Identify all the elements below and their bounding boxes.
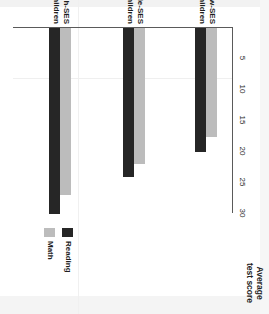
- x-tick-30: 30: [238, 202, 247, 224]
- category-label-middle-ses-line2: children: [126, 0, 136, 24]
- x-tick-15: 15: [238, 109, 247, 131]
- x-axis-title-line1: Average: [255, 255, 265, 311]
- category-label-middle-ses: Middle-SES children: [126, 0, 145, 24]
- x-axis-line: [232, 27, 233, 213]
- category-label-middle-ses-line1: Middle-SES: [136, 0, 146, 24]
- bar-math-high-ses: [60, 28, 71, 195]
- x-tick-25: 25: [238, 171, 247, 193]
- x-tick-5: 5: [238, 47, 247, 69]
- category-label-high-ses: High-SES children: [52, 0, 71, 24]
- x-tick-20: 20: [238, 140, 247, 162]
- category-label-low-ses: Low-SES children: [198, 0, 217, 24]
- bar-math-low-ses: [206, 28, 217, 137]
- legend-swatch-math-icon: [44, 228, 55, 237]
- legend-label-math: Math: [46, 241, 55, 260]
- bar-reading-low-ses: [195, 28, 206, 152]
- x-axis-title: Average test score: [245, 255, 265, 311]
- bar-reading-high-ses: [49, 28, 60, 214]
- category-label-low-ses-line1: Low-SES: [208, 0, 218, 24]
- legend-swatch-reading-icon: [62, 228, 73, 237]
- rotated-chart-container: Average test score 5 10 15 20 25 30 Low-…: [0, 0, 269, 314]
- legend-label-reading: Reading: [64, 241, 73, 273]
- bar-chart: Average test score 5 10 15 20 25 30 Low-…: [0, 0, 269, 314]
- category-label-high-ses-line1: High-SES: [62, 0, 72, 24]
- category-label-low-ses-line2: children: [198, 0, 208, 24]
- bar-reading-middle-ses: [123, 28, 134, 177]
- bar-math-middle-ses: [134, 28, 145, 164]
- category-label-high-ses-line2: children: [52, 0, 62, 24]
- x-axis-title-line2: test score: [245, 255, 255, 311]
- scanned-page: Average test score 5 10 15 20 25 30 Low-…: [0, 0, 269, 314]
- x-tick-10: 10: [238, 78, 247, 100]
